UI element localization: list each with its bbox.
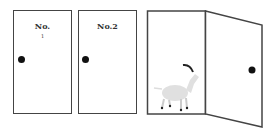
door-3-open[interactable] [0, 0, 274, 135]
door-3-knob [249, 67, 256, 74]
